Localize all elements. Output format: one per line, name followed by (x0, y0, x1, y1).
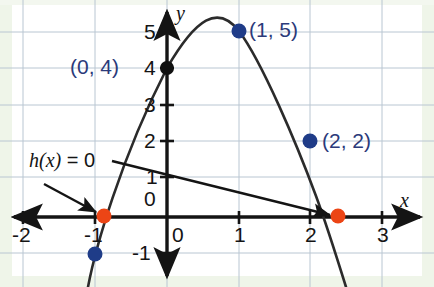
x-tick-label-neg1: -1 (84, 224, 103, 245)
marker-point-below (88, 247, 103, 262)
x-tick-label-1: 1 (234, 224, 246, 245)
x-tick-label-3: 3 (377, 224, 389, 245)
marker-y-intercept (160, 61, 174, 75)
x-axis-label: x (400, 190, 409, 210)
y-tick-label-1: 1 (146, 166, 158, 187)
x-tick-label-neg2: -2 (12, 224, 31, 245)
marker-point-2-2 (303, 134, 318, 149)
x-tick-label-0: 0 (172, 224, 184, 245)
graph-figure: 5 4 3 2 1 0 -1 -2 -1 0 1 2 3 y x (0, 4) … (0, 0, 434, 287)
marker-root-left (97, 209, 112, 224)
y-tick-label-neg1: -1 (132, 242, 151, 263)
marker-root-right (331, 209, 346, 224)
y-axis-label: y (176, 3, 185, 23)
annotation-h-of-x-equals-zero: h(x) = 0 (29, 150, 95, 170)
point-label-0-4: (0, 4) (70, 56, 119, 77)
marker-point-1-5 (232, 24, 247, 39)
x-tick-label-2: 2 (305, 224, 317, 245)
y-tick-label-5: 5 (144, 21, 156, 42)
y-tick-label-3: 3 (144, 94, 156, 115)
y-tick-label-2: 2 (144, 130, 156, 151)
annotation-function-name: h(x) (29, 149, 61, 171)
y-tick-label-0: 0 (144, 188, 156, 209)
y-tick-label-4: 4 (144, 57, 156, 78)
annotation-equals-zero: = 0 (61, 149, 95, 171)
point-label-2-2: (2, 2) (322, 130, 371, 151)
point-label-1-5: (1, 5) (249, 19, 298, 40)
